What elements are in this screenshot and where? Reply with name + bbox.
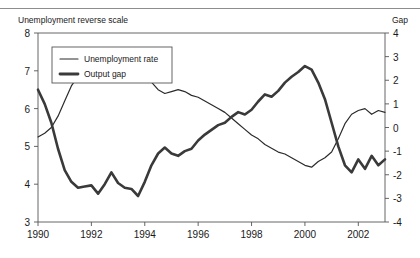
- left-tick-label: 8: [24, 28, 30, 39]
- x-tick-label: 1992: [80, 229, 103, 240]
- right-tick-label: 3: [393, 52, 399, 63]
- legend-label: Unemployment rate: [84, 54, 158, 64]
- x-tick-label: 1994: [134, 229, 157, 240]
- right-tick-label: 0: [393, 123, 399, 134]
- left-axis-ticks: 345678: [24, 28, 38, 228]
- x-tick-label: 1990: [27, 229, 50, 240]
- left-tick-label: 3: [24, 217, 30, 228]
- left-tick-label: 7: [24, 66, 30, 77]
- legend-label: Output gap: [84, 69, 126, 79]
- x-tick-label: 1998: [240, 229, 263, 240]
- x-tick-label: 1996: [187, 229, 210, 240]
- left-tick-label: 6: [24, 104, 30, 115]
- right-tick-label: -1: [393, 146, 402, 157]
- right-tick-label: -4: [393, 217, 402, 228]
- left-tick-label: 5: [24, 141, 30, 152]
- right-axis-ticks: 43210-1-2-3-4: [385, 28, 402, 228]
- plot-area: 345678 43210-1-2-3-4 1990199219941996199…: [0, 0, 420, 258]
- series-line-output-gap: [38, 66, 385, 196]
- left-tick-label: 4: [24, 179, 30, 190]
- x-axis-ticks: 1990199219941996199820002002: [27, 222, 370, 240]
- chart-figure: Unemployment reverse scale Gap 345678 43…: [0, 0, 420, 258]
- x-tick-label: 2000: [294, 229, 317, 240]
- right-tick-label: -2: [393, 170, 402, 181]
- right-tick-label: -3: [393, 193, 402, 204]
- right-tick-label: 4: [393, 28, 399, 39]
- right-tick-label: 1: [393, 99, 399, 110]
- right-tick-label: 2: [393, 75, 399, 86]
- chart-legend: Unemployment rateOutput gap: [52, 47, 172, 83]
- x-tick-label: 2002: [347, 229, 370, 240]
